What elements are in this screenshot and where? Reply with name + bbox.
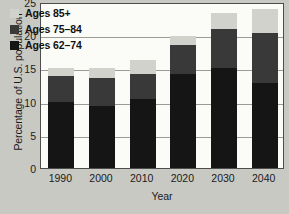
x-axis-tick-labels: 199020002010202020302040 [40, 172, 284, 188]
bar-2010 [130, 3, 156, 168]
bar-segment [170, 45, 196, 74]
bar-segment [170, 74, 196, 168]
bar-segment [211, 29, 237, 69]
legend-item: Ages 75–84 [10, 22, 82, 36]
x-tick-label: 1990 [49, 172, 72, 184]
y-tick-label: 0 [12, 163, 36, 175]
legend-item: Ages 85+ [10, 6, 82, 20]
legend-label: Ages 75–84 [25, 23, 82, 35]
bar-segment [48, 102, 74, 168]
bar-segment [130, 60, 156, 74]
bar-segment [130, 74, 156, 99]
x-axis-title: Year [40, 190, 284, 202]
bar-2030 [211, 3, 237, 168]
legend-label: Ages 62–74 [25, 39, 82, 51]
bar-segment [130, 99, 156, 168]
y-tick-label: 5 [12, 130, 36, 142]
bar-segment [89, 68, 115, 77]
bar-segment [252, 33, 278, 83]
bar-2040 [252, 3, 278, 168]
x-tick-label: 2020 [171, 172, 194, 184]
bar-2000 [89, 3, 115, 168]
legend: Ages 85+Ages 75–84Ages 62–74 [10, 6, 82, 54]
legend-swatch-icon [10, 41, 19, 50]
x-tick-label: 2030 [211, 172, 234, 184]
bar-segment [89, 106, 115, 168]
legend-swatch-icon [10, 25, 19, 34]
legend-item: Ages 62–74 [10, 38, 82, 52]
bar-2020 [170, 3, 196, 168]
x-tick-label: 2040 [252, 172, 275, 184]
bar-segment [48, 76, 74, 101]
legend-swatch-icon [10, 9, 19, 18]
y-tick-label: 10 [12, 97, 36, 109]
bar-segment [48, 68, 74, 76]
bar-segment [252, 83, 278, 168]
bar-segment [89, 78, 115, 107]
stacked-bar-chart: Percentage of U.S. population 0510152025… [0, 0, 289, 214]
x-tick-label: 2010 [130, 172, 153, 184]
bar-segment [170, 36, 196, 45]
x-tick-label: 2000 [89, 172, 112, 184]
y-tick-label: 15 [12, 63, 36, 75]
bar-segment [252, 9, 278, 33]
bar-segment [211, 68, 237, 168]
legend-label: Ages 85+ [25, 7, 71, 19]
bar-segment [211, 13, 237, 29]
